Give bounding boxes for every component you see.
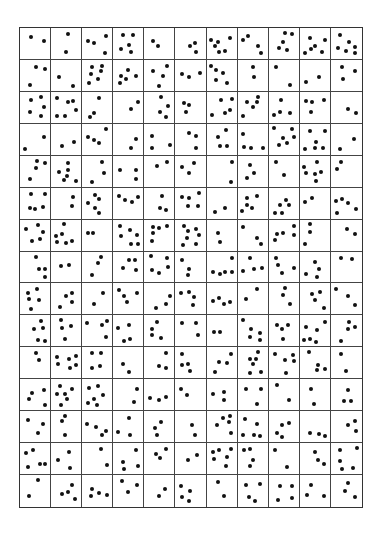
dot [97, 141, 101, 145]
dot [241, 225, 245, 229]
dot [254, 357, 258, 361]
dot [27, 397, 31, 401]
dot-cell [207, 124, 238, 156]
dot [248, 447, 252, 451]
dot [63, 337, 67, 341]
dot [222, 494, 226, 498]
dot [240, 209, 244, 213]
dot [67, 450, 71, 454]
dot [36, 223, 40, 227]
dot [28, 110, 32, 114]
dot [157, 226, 161, 230]
dot [55, 392, 59, 396]
dot-cell [144, 188, 175, 220]
dot [335, 211, 339, 215]
dot-cell [207, 443, 238, 475]
dot-cell [51, 315, 82, 347]
dot [347, 320, 351, 324]
dot-cell [113, 220, 144, 252]
dot [230, 97, 234, 101]
dot [276, 498, 280, 502]
dot [228, 108, 232, 112]
dot-cell [144, 60, 175, 92]
dot [313, 298, 317, 302]
dot [292, 266, 296, 270]
dot-cell [238, 92, 269, 124]
dot [255, 287, 259, 291]
dot-cell [82, 156, 113, 188]
dot [92, 138, 96, 142]
dot [248, 371, 252, 375]
dot [165, 224, 169, 228]
dot [310, 196, 314, 200]
dot [225, 144, 229, 148]
dot [157, 398, 161, 402]
dot-cell [300, 379, 331, 411]
dot [217, 360, 221, 364]
dot [97, 211, 101, 215]
dot [72, 140, 76, 144]
dot-cell [144, 92, 175, 124]
dot [43, 339, 47, 343]
dot [135, 387, 139, 391]
dot [94, 425, 98, 429]
dot [26, 465, 30, 469]
dot [179, 387, 183, 391]
dot [64, 294, 68, 298]
dot-cell [207, 283, 238, 315]
dot [129, 242, 133, 246]
dot [73, 497, 77, 501]
dot [316, 458, 320, 462]
dot [154, 452, 158, 456]
dot [287, 398, 291, 402]
dot [35, 159, 39, 163]
dot [284, 371, 288, 375]
dot-cell [175, 347, 206, 379]
dot [86, 231, 90, 235]
dot [38, 237, 42, 241]
dot [222, 302, 226, 306]
dot [198, 71, 202, 75]
dot-cell [331, 475, 362, 507]
dot-cell [207, 92, 238, 124]
dot [216, 231, 220, 235]
dot [339, 256, 343, 260]
dot [290, 484, 294, 488]
dot [39, 95, 43, 99]
dot [129, 50, 133, 54]
dot [258, 338, 262, 342]
dot [241, 38, 245, 42]
dot [36, 338, 40, 342]
dot [286, 323, 290, 327]
dot [304, 171, 308, 175]
dot [317, 267, 321, 271]
dot [353, 419, 357, 423]
dot-cell [144, 124, 175, 156]
dot [290, 32, 294, 36]
dot [165, 256, 169, 260]
dot [281, 293, 285, 297]
dot [310, 100, 314, 104]
dot [164, 395, 168, 399]
dot [62, 222, 66, 226]
dot [86, 401, 90, 405]
dot-cell [238, 124, 269, 156]
dot [334, 199, 338, 203]
dot-cell [331, 60, 362, 92]
dot [340, 467, 344, 471]
dot [97, 491, 101, 495]
dot [123, 198, 127, 202]
dot [272, 113, 276, 117]
dot [245, 203, 249, 207]
dot [166, 265, 170, 269]
dot [339, 160, 343, 164]
dot [346, 327, 350, 331]
dot [24, 451, 28, 455]
dot-cell [20, 252, 51, 284]
dot [248, 464, 252, 468]
dot [309, 387, 313, 391]
dot [345, 227, 349, 231]
dot [252, 433, 256, 437]
dot [43, 275, 47, 279]
dot [157, 364, 161, 368]
